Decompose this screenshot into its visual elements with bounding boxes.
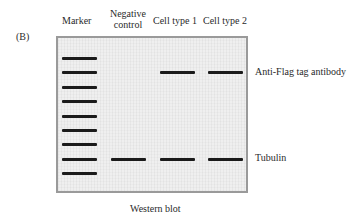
lane-label-cell-type-1: Cell type 1 [153, 15, 197, 26]
marker-band [62, 172, 97, 175]
flag-band-label: Anti-Flag tag antibody [255, 66, 346, 77]
marker-band [62, 115, 97, 118]
figure-caption: Western blot [130, 203, 181, 214]
western-blot-gel [56, 36, 248, 193]
tubulin-band-cell-type-1 [160, 158, 195, 161]
marker-band [62, 129, 97, 132]
lane-label-cell-type-2: Cell type 2 [203, 15, 247, 26]
panel-label: (B) [16, 31, 29, 42]
lane-label-line1: Negative [108, 8, 148, 19]
marker-band [62, 86, 97, 89]
lane-label-line2: control [108, 19, 148, 30]
flag-band-cell-type-1 [160, 71, 195, 74]
marker-band [62, 100, 97, 103]
tubulin-band-negative-control [111, 158, 146, 161]
flag-band-cell-type-2 [208, 71, 243, 74]
marker-band [62, 158, 97, 161]
marker-band [62, 143, 97, 146]
marker-band [62, 57, 97, 60]
marker-band [62, 71, 97, 74]
tubulin-band-cell-type-2 [208, 158, 243, 161]
tubulin-band-label: Tubulin [255, 152, 286, 163]
lane-label-negative-control: Negative control [108, 8, 148, 30]
lane-label-marker: Marker [62, 15, 91, 26]
